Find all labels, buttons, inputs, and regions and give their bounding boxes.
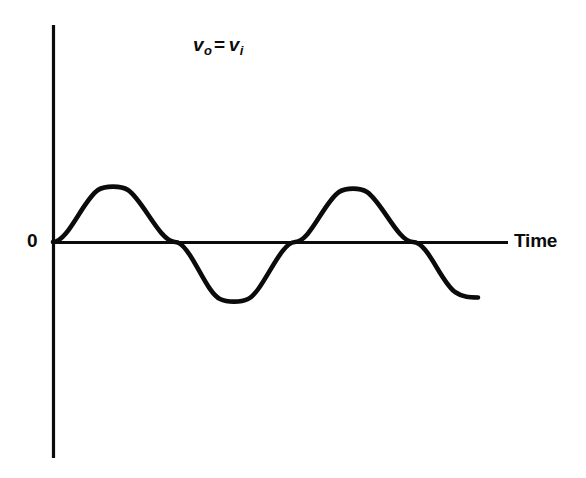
title-subscript-in: i (240, 43, 244, 58)
plot-canvas (0, 0, 586, 478)
time-axis-label: Time (514, 231, 557, 250)
waveform-title: vo=vi (193, 35, 243, 54)
sine-waveform-path (53, 187, 478, 302)
title-equals-sign: = (214, 34, 226, 55)
title-symbol-in: v (229, 34, 240, 55)
title-symbol-out: v (193, 34, 204, 55)
waveform-figure: vo=vi 0 Time (0, 0, 586, 478)
title-subscript-out: o (204, 43, 212, 58)
origin-zero-label: 0 (27, 231, 38, 250)
